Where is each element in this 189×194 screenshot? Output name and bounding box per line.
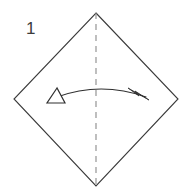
origami-diagram-canvas: 1 [0,0,189,194]
step-number-label: 1 [26,19,35,38]
origami-diagram-svg: 1 [0,0,189,194]
